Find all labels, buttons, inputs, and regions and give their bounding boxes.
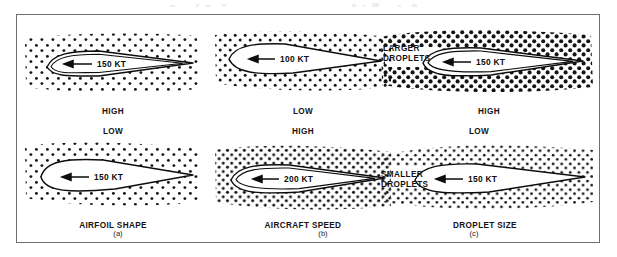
droplet-note-line1: SMALLER [381, 170, 423, 179]
catch-rate-c-bottom: LOW [389, 127, 569, 136]
droplet-note-line2: DROPLETS [383, 54, 430, 63]
cropped-caption-artifact [0, 0, 617, 12]
droplet-note-line1: LARGER [383, 44, 420, 53]
catch-rate-c-top: HIGH [399, 107, 579, 116]
speed-label-a-bottom: 150 KT [94, 172, 124, 182]
subfig-label-c: (c) [434, 229, 514, 238]
figure-frame: 150 KT HIGH LOW [16, 14, 600, 243]
subfig-label-b: (b) [283, 229, 363, 238]
speed-label-c-top: 150 KT [476, 57, 506, 67]
catch-rate-b-bottom: HIGH [213, 127, 393, 136]
droplet-note-line2: DROPLETS [381, 180, 428, 189]
catch-rate-a-bottom: LOW [23, 127, 203, 136]
catch-rate-b-top: LOW [213, 107, 393, 116]
speed-label-c-bottom: 150 KT [468, 174, 498, 184]
speed-label-b-bottom: 200 KT [284, 174, 314, 184]
droplet-size-note-c-bottom: SMALLERDROPLETS [381, 170, 441, 191]
panel-b-bottom: 200 KT [213, 136, 393, 222]
catch-rate-a-top: HIGH [23, 107, 203, 116]
subfig-label-a: (a) [78, 229, 158, 238]
speed-label-a-top: 150 KT [97, 59, 127, 69]
droplet-size-note-c-top: LARGERDROPLETS [383, 44, 441, 65]
panel-c-top: 150 KT [379, 21, 595, 109]
panel-b-top: 100 KT [213, 23, 393, 109]
panel-a-bottom: 150 KT [23, 136, 203, 222]
panel-a-top: 150 KT [23, 21, 203, 107]
speed-label-b-top: 100 KT [280, 54, 310, 64]
icing-factors-figure: 150 KT HIGH LOW [0, 0, 617, 257]
